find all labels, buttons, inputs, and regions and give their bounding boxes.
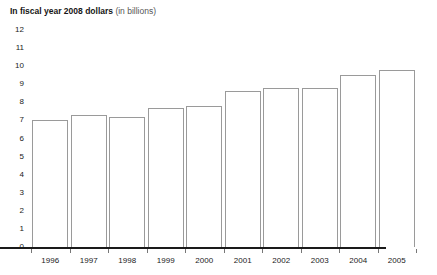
- y-axis-tick-label: 1: [20, 225, 24, 233]
- y-axis-tick-label: 9: [20, 80, 24, 88]
- x-axis-label-2002: 2002: [262, 256, 301, 266]
- chart-title: In fiscal year 2008 dollars (in billions…: [10, 6, 156, 17]
- bar-slot: [185, 30, 224, 247]
- x-axis-tickmark: [224, 249, 225, 253]
- x-axis-tickmark: [339, 249, 340, 253]
- bar-slot: [224, 30, 263, 247]
- bar-series: [31, 30, 416, 247]
- bar-slot: [31, 30, 70, 247]
- chart-title-units: (in billions): [115, 6, 156, 16]
- x-axis-tickmark: [31, 249, 32, 253]
- x-axis-labels: 1996199719981999200020012002200320042005: [31, 256, 416, 266]
- bar-slot: [339, 30, 378, 247]
- x-axis-label-1996: 1996: [31, 256, 70, 266]
- x-axis-label-1999: 1999: [147, 256, 186, 266]
- y-axis-tick-label: 8: [20, 98, 24, 106]
- x-axis-tickmark: [108, 249, 109, 253]
- bar-1997: [71, 115, 107, 247]
- bar-1999: [148, 108, 184, 247]
- x-axis-label-1998: 1998: [108, 256, 147, 266]
- y-axis-tick-label: 7: [20, 116, 24, 124]
- y-axis-tick-label: 6: [20, 135, 24, 143]
- x-axis-label-2000: 2000: [185, 256, 224, 266]
- bar-slot: [262, 30, 301, 247]
- y-axis-tick-label: 2: [20, 207, 24, 215]
- plot-area: 1211109876543210: [31, 30, 416, 247]
- x-axis-label-2005: 2005: [378, 256, 417, 266]
- y-axis-tick-label: 5: [20, 153, 24, 161]
- bar-2005: [379, 70, 415, 247]
- x-axis-tickmark: [378, 249, 379, 253]
- y-axis-tick-label: 4: [20, 171, 24, 179]
- bar-slot: [108, 30, 147, 247]
- x-axis-baseline: [0, 247, 386, 249]
- y-axis-tick-label: 3: [20, 189, 24, 197]
- x-axis-tickmark: [262, 249, 263, 253]
- x-axis-tickmark: [70, 249, 71, 253]
- bar-slot: [301, 30, 340, 247]
- y-axis-tick-label: 11: [16, 44, 24, 52]
- y-axis-tick-label: 10: [15, 62, 24, 70]
- chart-title-main: In fiscal year 2008 dollars: [10, 6, 113, 16]
- bar-2003: [302, 88, 338, 247]
- x-axis-label-2003: 2003: [301, 256, 340, 266]
- x-axis-tickmark: [301, 249, 302, 253]
- bar-2001: [225, 91, 261, 247]
- bar-2000: [186, 106, 222, 247]
- bar-2002: [263, 88, 299, 247]
- x-axis-tickmark: [416, 249, 417, 253]
- bar-2004: [340, 75, 376, 247]
- x-axis-label-1997: 1997: [70, 256, 109, 266]
- bar-1996: [32, 120, 68, 247]
- x-axis-tickmark: [185, 249, 186, 253]
- bar-slot: [378, 30, 417, 247]
- bar-slot: [70, 30, 109, 247]
- x-axis-tickmark: [147, 249, 148, 253]
- x-axis-label-2001: 2001: [224, 256, 263, 266]
- bar-chart: In fiscal year 2008 dollars (in billions…: [0, 0, 437, 275]
- x-axis-label-2004: 2004: [339, 256, 378, 266]
- bar-1998: [109, 117, 145, 247]
- bar-slot: [147, 30, 186, 247]
- y-axis-tick-label: 12: [15, 26, 24, 34]
